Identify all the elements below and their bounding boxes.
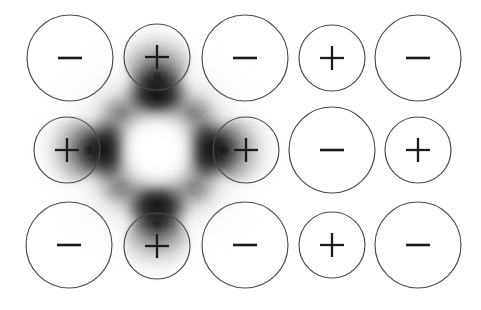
density-core-void: [117, 110, 197, 190]
ion-r1c3[interactable]: [289, 107, 375, 193]
ion-r0c1[interactable]: [124, 24, 190, 90]
ion-r2c4[interactable]: [375, 202, 461, 288]
ion-r1c0[interactable]: [34, 117, 100, 183]
ion-r0c0[interactable]: [27, 15, 113, 101]
ion-r2c2[interactable]: [202, 202, 288, 288]
ion-r2c3[interactable]: [299, 212, 365, 278]
ion-r0c3[interactable]: [299, 25, 365, 91]
ion-r2c1[interactable]: [124, 213, 190, 279]
ion-r1c4[interactable]: [385, 117, 451, 183]
ion-r0c4[interactable]: [375, 15, 461, 101]
ion-r2c0[interactable]: [26, 202, 112, 288]
lattice-density-figure: [0, 0, 481, 310]
ion-r1c2[interactable]: [213, 117, 279, 183]
ion-r0c2[interactable]: [202, 15, 288, 101]
figure-root: [0, 0, 481, 310]
